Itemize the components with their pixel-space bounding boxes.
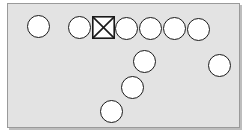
diagram-canvas bbox=[0, 0, 250, 136]
node-circle[interactable] bbox=[115, 17, 138, 40]
x-mark-icon bbox=[92, 16, 115, 39]
node-circle[interactable] bbox=[187, 18, 210, 41]
node-circle[interactable] bbox=[100, 100, 123, 123]
board-panel[interactable] bbox=[7, 3, 240, 128]
node-circle[interactable] bbox=[68, 16, 91, 39]
node-circle[interactable] bbox=[208, 54, 231, 77]
node-square-x-marker[interactable] bbox=[92, 16, 115, 39]
node-circle[interactable] bbox=[133, 50, 156, 73]
node-circle[interactable] bbox=[163, 17, 186, 40]
node-circle[interactable] bbox=[121, 76, 144, 99]
node-circle[interactable] bbox=[27, 15, 50, 38]
node-circle[interactable] bbox=[139, 17, 162, 40]
